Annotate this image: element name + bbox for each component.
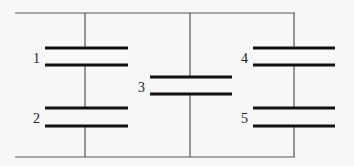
capacitor-5-label: 5 [241,111,248,126]
capacitor-4-label: 4 [241,51,248,66]
capacitor-2-label: 2 [33,111,40,126]
wires [15,13,295,157]
capacitor-1-label: 1 [33,51,40,66]
capacitor-3-label: 3 [138,80,145,95]
circuit-diagram: 1 2 3 4 5 [0,0,354,166]
